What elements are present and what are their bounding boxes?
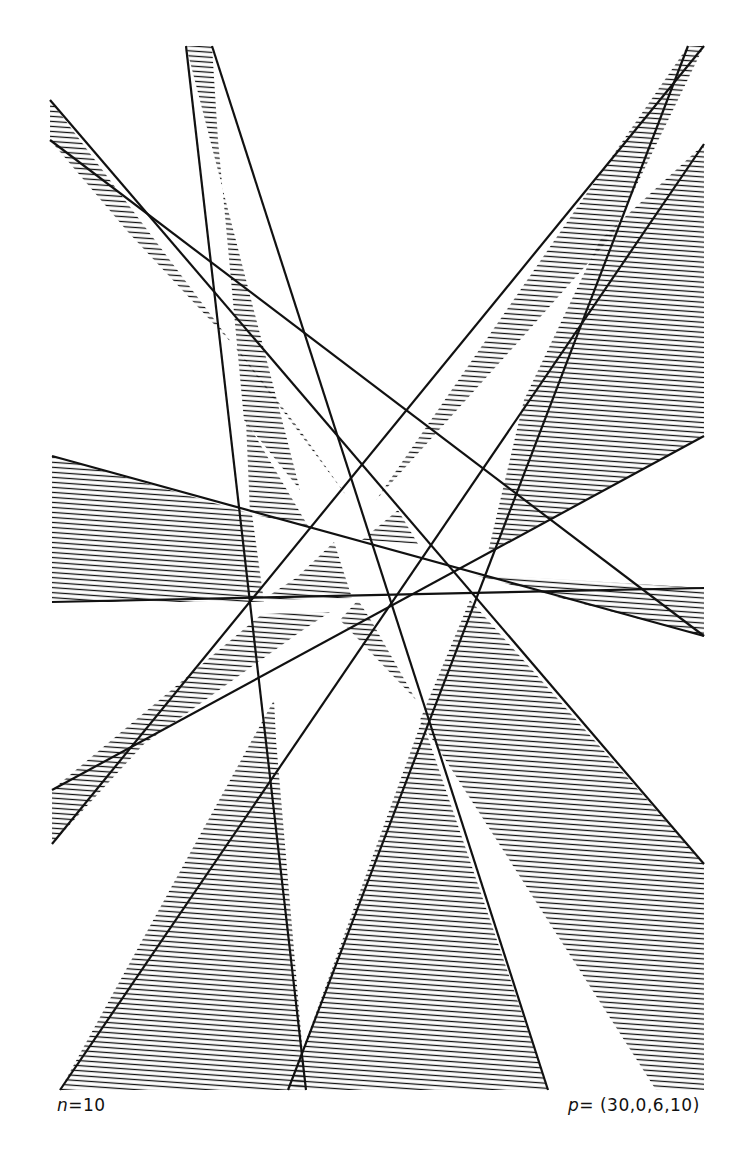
p-label: p= (30,0,6,10)	[568, 1095, 700, 1115]
p-variable: p	[568, 1095, 579, 1115]
line-arrangement-diagram	[0, 0, 748, 1172]
n-variable: n	[57, 1095, 68, 1115]
lower-left-wedge	[52, 612, 330, 844]
n-value: =10	[68, 1095, 105, 1115]
left-wedge	[52, 456, 264, 602]
n-label: n=10	[57, 1095, 106, 1115]
hatched-regions	[50, 46, 704, 1090]
center-wedge-c	[340, 600, 416, 700]
p-value: = (30,0,6,10)	[579, 1095, 700, 1115]
